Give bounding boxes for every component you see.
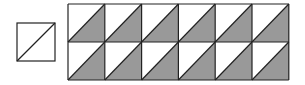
figure — [0, 0, 305, 85]
grid-cell — [178, 4, 215, 42]
grid-cell — [68, 4, 105, 42]
grid-cell — [68, 42, 105, 80]
grid-cell — [252, 42, 289, 80]
triangle-grid — [68, 4, 289, 80]
unit-square — [17, 23, 55, 61]
grid-cell — [252, 4, 289, 42]
grid-cell — [215, 42, 252, 80]
grid-cell — [178, 42, 215, 80]
grid-cell — [215, 4, 252, 42]
grid-cell — [105, 42, 142, 80]
grid-cell — [142, 42, 179, 80]
grid-cell — [105, 4, 142, 42]
grid-cell — [142, 4, 179, 42]
